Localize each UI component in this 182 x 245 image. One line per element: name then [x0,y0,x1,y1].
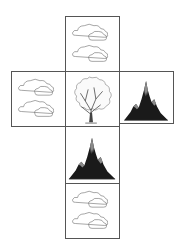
cube-face-bottom-clouds [65,183,120,239]
cube-face-below-mountain [65,126,120,184]
clouds-icon [66,17,119,71]
mountain-icon [120,72,173,123]
tree-icon [66,72,119,126]
cube-face-right-mountain [119,71,174,124]
cube-face-left-clouds [11,71,66,127]
clouds-icon [66,184,119,238]
mountain-icon [66,127,119,183]
clouds-icon [12,72,65,126]
cube-face-top-clouds [65,16,120,72]
cube-face-center-tree [65,71,120,127]
